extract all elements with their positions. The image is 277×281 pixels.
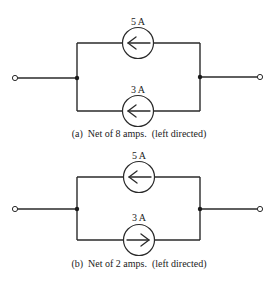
source-label-3a: 3 A xyxy=(131,84,146,95)
source-label-5a: 5 A xyxy=(131,16,146,27)
caption-a: (a) Net of 8 amps. (left directed) xyxy=(72,128,207,140)
current-source-3a xyxy=(123,96,154,127)
terminal-left xyxy=(12,75,17,80)
terminal-right xyxy=(257,206,262,211)
junction-node-left xyxy=(75,76,79,80)
caption-b: (b) Net of 2 amps. (left directed) xyxy=(71,258,206,270)
junction-node-left xyxy=(75,207,79,211)
current-source-5a xyxy=(123,28,154,59)
current-source-3a xyxy=(124,225,155,256)
source-label-3a: 3 A xyxy=(132,212,147,223)
circuit-a: 5 A 3 A (a) Net of 8 amps. (left directe… xyxy=(12,16,262,140)
circuit-b: 5 A 3 A (b) Net of 2 amps. (left directe… xyxy=(12,150,262,270)
terminal-right xyxy=(257,74,262,79)
current-source-5a xyxy=(124,162,155,193)
junction-node-right xyxy=(198,75,202,79)
junction-node-right xyxy=(198,207,202,211)
terminal-left xyxy=(12,206,17,211)
source-label-5a: 5 A xyxy=(132,150,147,161)
circuit-figure: 5 A 3 A (a) Net of 8 amps. (left directe… xyxy=(0,0,277,281)
